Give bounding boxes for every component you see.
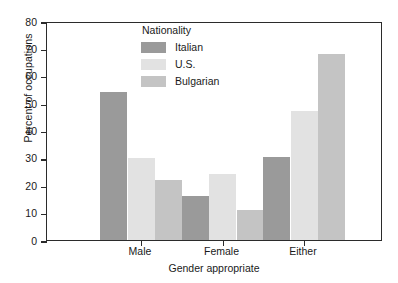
bar-male-us: [128, 158, 155, 240]
bar-female-us: [209, 174, 236, 240]
legend-item-label: Italian: [175, 41, 203, 53]
y-tick-label: 40: [9, 125, 37, 137]
bar-male-bulgarian: [155, 180, 182, 240]
y-tick-label: 80: [9, 16, 37, 28]
legend-swatch-icon: [141, 59, 166, 70]
legend-title: Nationality: [141, 24, 219, 36]
legend: Nationality ItalianU.S.Bulgarian: [141, 24, 219, 90]
y-tick-label: 10: [9, 207, 37, 219]
y-tick-mark: [41, 105, 47, 106]
y-tick-mark: [41, 77, 47, 78]
y-tick-label: 50: [9, 98, 37, 110]
bar-female-bulgarian: [237, 210, 264, 240]
x-axis-label-female: Female: [177, 245, 267, 257]
bar-male-italian: [100, 92, 127, 240]
x-axis-label-male: Male: [95, 245, 185, 257]
x-axis-title: Gender appropriate: [46, 262, 382, 274]
y-tick-mark: [41, 187, 47, 188]
y-tick-mark: [41, 50, 47, 51]
legend-swatch-icon: [141, 42, 166, 53]
y-tick-label: 30: [9, 152, 37, 164]
y-tick-mark: [41, 159, 47, 160]
y-tick-label: 60: [9, 70, 37, 82]
bar-either-bulgarian: [318, 54, 345, 240]
y-axis-title: Percent of occupations: [22, 8, 34, 168]
legend-swatch-icon: [141, 76, 166, 87]
x-axis-label-either: Either: [258, 245, 348, 257]
y-tick-mark: [41, 22, 47, 23]
y-tick-label: 20: [9, 180, 37, 192]
y-tick-mark: [41, 241, 47, 242]
legend-entries: ItalianU.S.Bulgarian: [141, 39, 219, 89]
bar-either-us: [291, 111, 318, 240]
y-tick-label: 0: [9, 235, 37, 247]
legend-item-label: U.S.: [175, 58, 195, 70]
legend-item-bulgarian: Bulgarian: [141, 73, 219, 89]
bar-female-italian: [182, 196, 209, 240]
bar-either-italian: [263, 157, 290, 240]
y-tick-mark: [41, 132, 47, 133]
legend-item-us: U.S.: [141, 56, 219, 72]
legend-item-label: Bulgarian: [175, 75, 219, 87]
legend-item-italian: Italian: [141, 39, 219, 55]
y-tick-label: 70: [9, 43, 37, 55]
y-tick-mark: [41, 214, 47, 215]
bar-chart: Percent of occupations 80706050403020100…: [0, 0, 398, 283]
